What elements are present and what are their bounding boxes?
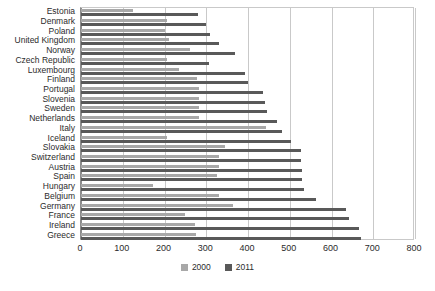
x-tick-300: 300 [198, 243, 213, 253]
category-label-germany: Germany [40, 202, 75, 211]
category-label-slovenia: Slovenia [42, 95, 75, 104]
bar-2011-estonia [81, 13, 198, 16]
bar-row [81, 86, 413, 96]
bar-2000-denmark [81, 19, 167, 22]
bar-2011-portugal [81, 91, 263, 94]
bar-2000-slovenia [81, 97, 199, 100]
bar-2011-ireland [81, 227, 359, 230]
bar-2000-finland [81, 77, 197, 80]
bar-2011-slovakia [81, 149, 301, 152]
gridline-800 [415, 8, 416, 239]
bar-2011-iceland [81, 140, 291, 143]
bar-2000-norway [81, 48, 190, 51]
bar-row [81, 144, 413, 154]
bar-2000-sweden [81, 106, 199, 109]
category-label-italy: Italy [59, 124, 75, 133]
bar-row [81, 95, 413, 105]
category-label-poland: Poland [49, 27, 75, 36]
bar-2000-belgium [81, 194, 219, 197]
bar-row [81, 134, 413, 144]
x-tick-400: 400 [239, 243, 254, 253]
bar-2011-united-kingdom [81, 42, 219, 45]
bar-2000-poland [81, 29, 165, 32]
x-tick-0: 0 [77, 243, 82, 253]
category-label-france: France [49, 211, 75, 220]
bar-2000-spain [81, 174, 217, 177]
bar-2011-luxembourg [81, 72, 245, 75]
bar-2011-denmark [81, 23, 206, 26]
bar-2000-italy [81, 126, 266, 129]
bar-2000-slovakia [81, 145, 225, 148]
category-label-greece: Greece [47, 231, 75, 240]
x-tick-800: 800 [406, 243, 421, 253]
bar-2011-poland [81, 33, 210, 36]
legend-item-2011[interactable]: 2011 [225, 263, 254, 272]
value-axis: 0100200300400500600700800 [80, 240, 414, 256]
bar-rows [81, 8, 413, 239]
bar-row [81, 47, 413, 57]
bar-row [81, 202, 413, 212]
bar-2000-united-kingdom [81, 38, 169, 41]
category-label-austria: Austria [49, 163, 75, 172]
category-label-denmark: Denmark [41, 17, 75, 26]
x-tick-700: 700 [365, 243, 380, 253]
bar-2011-norway [81, 52, 235, 55]
category-label-estonia: Estonia [47, 7, 75, 16]
bar-row [81, 154, 413, 164]
legend-item-2000[interactable]: 2000 [181, 263, 211, 272]
chart-legend: 20002011 [0, 263, 435, 272]
legend-label-2011: 2011 [236, 263, 254, 272]
bar-row [81, 125, 413, 135]
bar-2011-italy [81, 130, 282, 133]
bar-row [81, 27, 413, 37]
bar-2000-greece [81, 233, 196, 236]
bar-chart-figure: EstoniaDenmarkPolandUnited KingdomNorway… [0, 0, 435, 291]
bar-row [81, 8, 413, 18]
bar-2011-spain [81, 178, 302, 181]
bar-2011-netherlands [81, 120, 277, 123]
bar-2000-switzerland [81, 155, 219, 158]
legend-swatch-2000 [181, 264, 188, 271]
bar-2011-germany [81, 208, 346, 211]
legend-swatch-2011 [225, 264, 232, 271]
category-label-spain: Spain [53, 172, 75, 181]
category-label-portugal: Portugal [43, 85, 75, 94]
category-label-united-kingdom: United Kingdom [15, 36, 75, 45]
category-label-luxembourg: Luxembourg [28, 66, 75, 75]
bar-2000-hungary [81, 184, 153, 187]
x-tick-100: 100 [114, 243, 129, 253]
bar-row [81, 57, 413, 67]
bar-2000-netherlands [81, 116, 199, 119]
bar-row [81, 115, 413, 125]
category-label-finland: Finland [47, 75, 75, 84]
bar-row [81, 37, 413, 47]
bar-row [81, 222, 413, 232]
bar-2000-iceland [81, 136, 167, 139]
bar-2011-sweden [81, 110, 267, 113]
category-label-netherlands: Netherlands [29, 114, 75, 123]
bar-2000-portugal [81, 87, 199, 90]
category-label-sweden: Sweden [44, 104, 75, 113]
category-label-czech-republic: Czech Republic [15, 56, 75, 65]
x-tick-500: 500 [281, 243, 296, 253]
bar-row [81, 18, 413, 28]
bar-2000-germany [81, 204, 233, 207]
category-label-iceland: Iceland [48, 134, 75, 143]
category-label-slovakia: Slovakia [43, 143, 75, 152]
bar-2000-france [81, 213, 185, 216]
category-axis: EstoniaDenmarkPolandUnited KingdomNorway… [0, 7, 78, 240]
bar-row [81, 192, 413, 202]
x-tick-200: 200 [156, 243, 171, 253]
bar-row [81, 76, 413, 86]
bar-row [81, 66, 413, 76]
bar-2011-belgium [81, 198, 316, 201]
x-tick-600: 600 [323, 243, 338, 253]
bar-2000-luxembourg [81, 68, 179, 71]
plot-area [80, 7, 414, 240]
bar-2011-czech-republic [81, 62, 209, 65]
bar-2011-switzerland [81, 159, 301, 162]
bar-2011-slovenia [81, 101, 265, 104]
category-label-norway: Norway [46, 46, 75, 55]
bar-2011-finland [81, 81, 248, 84]
bar-row [81, 212, 413, 222]
